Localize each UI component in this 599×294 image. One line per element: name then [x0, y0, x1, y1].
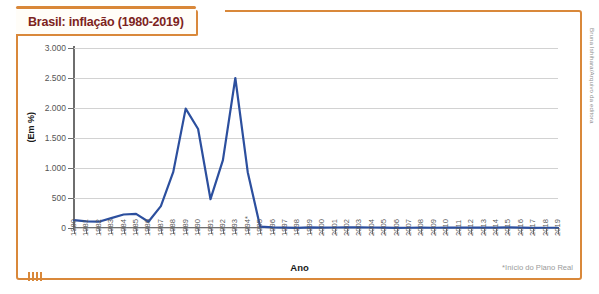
chart-figure: Brasil: inflação (1980-2019) Bruna Ishih… — [0, 0, 599, 294]
plot-area — [74, 48, 558, 228]
x-tick-label: 2018 — [541, 219, 550, 236]
y-tick-label: 1.500 — [22, 133, 66, 143]
hatch-decoration — [28, 272, 46, 281]
x-tick-label: 1992 — [218, 219, 227, 236]
x-tick-label: 2011 — [454, 220, 463, 236]
x-tick-label: 2013 — [479, 219, 488, 236]
x-tick-label: 1994* — [243, 216, 252, 236]
x-tick-label: 2004 — [367, 219, 376, 236]
y-tick-label: 0 — [22, 223, 66, 233]
x-tick-label: 2012 — [466, 219, 475, 236]
x-tick-label: 2015 — [503, 219, 512, 236]
x-tick-label: 2002 — [342, 219, 351, 236]
x-tick-label: 2003 — [354, 219, 363, 236]
chart-title-tab: Brasil: inflação (1980-2019) — [16, 10, 198, 36]
x-tick-label: 2001 — [330, 219, 339, 236]
x-tick-label: 1980 — [69, 219, 78, 236]
x-tick-label: 1995 — [255, 219, 264, 236]
y-tick-label: 500 — [22, 193, 66, 203]
x-tick-label: 2005 — [379, 219, 388, 236]
y-tick-label: 2.000 — [22, 103, 66, 113]
x-tick-label: 1984 — [119, 219, 128, 236]
x-tick-label: 2007 — [404, 219, 413, 236]
x-tick-label: 1998 — [292, 219, 301, 236]
x-tick-label: 1983 — [106, 219, 115, 236]
inflation-series-line — [74, 48, 558, 228]
x-tick-label: 1986 — [143, 219, 152, 236]
x-tick-label: 1999 — [305, 219, 314, 236]
x-tick-label: 2016 — [516, 219, 525, 236]
x-tick-label: 2008 — [416, 219, 425, 236]
x-tick-label: 2000 — [317, 219, 326, 236]
chart-title: Brasil: inflação (1980-2019) — [28, 15, 184, 29]
chart-footnote: *Início do Plano Real — [502, 263, 573, 272]
x-tick-label: 1987 — [156, 219, 165, 236]
x-tick-label: 2006 — [392, 219, 401, 236]
x-tick-label: 1997 — [280, 219, 289, 236]
x-tick-label: 1981 — [81, 219, 90, 236]
x-tick-label: 1993 — [230, 219, 239, 236]
x-tick-label: 2010 — [441, 219, 450, 236]
y-tick-label: 1.000 — [22, 163, 66, 173]
credit-text: Bruna Ishihara/Arquivo da editora — [584, 28, 596, 228]
title-accent-bar — [16, 6, 196, 9]
x-tick-label: 1991 — [206, 219, 215, 236]
y-tick-label: 2.500 — [22, 73, 66, 83]
x-tick-label: 1990 — [193, 219, 202, 236]
x-tick-label: 1996 — [268, 219, 277, 236]
x-tick-label: 2017 — [528, 219, 537, 236]
y-tick-label: 3.000 — [22, 43, 66, 53]
x-tick-label: 2019 — [553, 219, 562, 236]
x-tick-label: 1988 — [168, 219, 177, 236]
x-tick-label: 1982 — [94, 219, 103, 236]
x-tick-label: 2009 — [429, 219, 438, 236]
x-tick-label: 2014 — [491, 219, 500, 236]
x-tick-label: 1985 — [131, 219, 140, 236]
x-tick-label: 1989 — [181, 219, 190, 236]
series-polyline — [74, 78, 558, 228]
